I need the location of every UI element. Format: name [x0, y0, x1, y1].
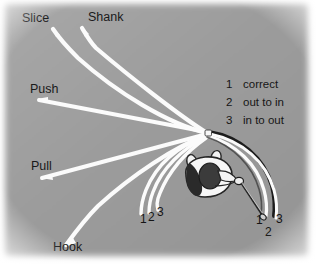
- legend-label-3: in to out: [243, 114, 285, 126]
- path-number-left-1: 1: [140, 212, 147, 226]
- path-number-right-3: 3: [276, 212, 283, 226]
- path-number-right-2: 2: [265, 225, 272, 239]
- legend-label-2: out to in: [243, 96, 284, 108]
- legend-label-1: correct: [243, 78, 279, 90]
- legend-number-3: 3: [226, 114, 232, 126]
- legend-number-2: 2: [226, 96, 232, 108]
- shot-label-hook: Hook: [53, 240, 83, 254]
- golf-shot-diagram: Slice Shank Push Pull Hook 1 correct 2 o…: [0, 0, 326, 270]
- shot-label-pull: Pull: [31, 159, 52, 173]
- figure-canvas: Slice Shank Push Pull Hook 1 correct 2 o…: [0, 0, 326, 270]
- path-number-left-3: 3: [157, 205, 164, 219]
- shot-label-slice: Slice: [22, 11, 49, 25]
- golfer-head: [199, 163, 221, 189]
- shot-label-shank: Shank: [88, 10, 124, 24]
- golf-ball: [205, 130, 212, 136]
- path-number-right-1: 1: [256, 213, 263, 227]
- path-number-left-2: 2: [148, 210, 155, 224]
- legend-number-1: 1: [226, 78, 232, 90]
- shot-label-push: Push: [30, 82, 59, 96]
